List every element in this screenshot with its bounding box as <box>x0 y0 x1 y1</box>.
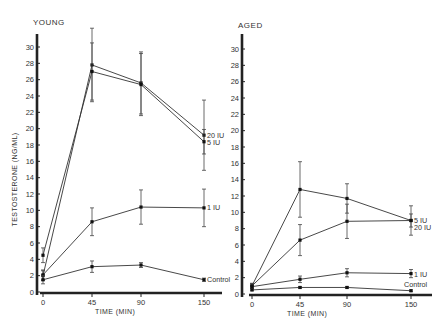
series-line <box>43 65 204 276</box>
series-line <box>252 221 411 286</box>
series-label: Control <box>207 275 231 284</box>
x-tick-label: 0 <box>41 298 45 307</box>
series-line <box>252 273 411 287</box>
series-label: 1 IU <box>207 203 220 212</box>
data-point <box>202 278 205 281</box>
series-control: Control <box>250 280 428 292</box>
series-line <box>252 189 411 285</box>
y-tick-label: 4 <box>30 255 34 264</box>
y-tick-label: 0 <box>235 290 239 299</box>
y-tick-label: 30 <box>26 43 34 52</box>
data-point <box>298 239 301 242</box>
data-point <box>139 263 142 266</box>
series-1-iu: 1 IU <box>41 189 220 280</box>
y-tick-label: 16 <box>26 157 34 166</box>
data-point <box>298 286 301 289</box>
data-point <box>345 286 348 289</box>
data-point <box>139 205 142 208</box>
x-tick-label: 90 <box>137 298 145 307</box>
y-tick-label: 18 <box>231 143 239 152</box>
data-point <box>250 285 253 288</box>
data-point <box>409 219 412 222</box>
data-point <box>345 271 348 274</box>
y-tick-label: 10 <box>231 208 239 217</box>
data-point <box>250 288 253 291</box>
data-point <box>41 278 44 281</box>
data-point <box>345 220 348 223</box>
data-point <box>202 206 205 209</box>
data-point <box>202 140 205 143</box>
y-tick-label: 22 <box>231 110 239 119</box>
y-tick-label: 14 <box>231 175 239 184</box>
data-point <box>409 289 412 292</box>
y-tick-label: 6 <box>235 241 239 250</box>
x-tick-label: 150 <box>405 300 418 309</box>
x-tick-label: 150 <box>198 298 211 307</box>
series-line <box>43 72 204 256</box>
series-1-iu: 1 IU <box>250 269 427 289</box>
y-tick-label: 8 <box>30 222 34 231</box>
x-axis-label: TIME (MIN) <box>287 310 327 318</box>
data-point <box>90 220 93 223</box>
panel-title: YOUNG <box>33 18 65 27</box>
series-5-iu: 5 IU <box>41 43 220 263</box>
y-tick-label: 24 <box>231 94 239 103</box>
x-tick-label: 0 <box>250 300 254 309</box>
y-tick-label: 4 <box>235 257 239 266</box>
series-control: Control <box>41 261 231 284</box>
y-tick-label: 30 <box>231 45 239 54</box>
y-tick-label: 6 <box>30 239 34 248</box>
y-tick-label: 20 <box>231 126 239 135</box>
data-point <box>298 188 301 191</box>
series-label: 5 IU <box>207 138 220 147</box>
y-tick-label: 10 <box>26 206 34 215</box>
testosterone-chart: YOUNG02468101214161820222426283004590150… <box>0 0 448 327</box>
y-tick-label: 28 <box>231 61 239 70</box>
series-line <box>43 265 204 280</box>
x-axis-label: TIME (MIN) <box>95 308 135 316</box>
y-tick-label: 24 <box>26 92 34 101</box>
y-tick-label: 2 <box>235 273 239 282</box>
panel-title: AGED <box>238 21 263 30</box>
y-axis-label: TESTOSTERONE (NG/ML) <box>11 133 19 227</box>
y-tick-label: 2 <box>30 271 34 280</box>
y-tick-label: 16 <box>231 159 239 168</box>
data-point <box>90 265 93 268</box>
series-20-iu: 20 IU <box>250 204 431 288</box>
panel-aged: AGED02468101214161820222426283004590150T… <box>231 21 432 318</box>
y-tick-label: 14 <box>26 173 34 182</box>
y-tick-label: 22 <box>26 108 34 117</box>
y-tick-label: 8 <box>235 224 239 233</box>
series-label: Control <box>404 280 428 289</box>
series-line <box>252 287 411 290</box>
y-tick-label: 26 <box>231 77 239 86</box>
data-point <box>41 254 44 257</box>
x-tick-label: 45 <box>88 298 96 307</box>
data-point <box>139 83 142 86</box>
y-tick-label: 20 <box>26 124 34 133</box>
series-label: 1 IU <box>414 270 427 279</box>
y-tick-label: 12 <box>231 192 239 201</box>
data-point <box>298 278 301 281</box>
y-tick-label: 12 <box>26 190 34 199</box>
y-tick-label: 0 <box>30 288 34 297</box>
series-20-iu: 20 IU <box>41 28 224 280</box>
y-tick-label: 28 <box>26 59 34 68</box>
series-line <box>43 207 204 275</box>
data-point <box>345 197 348 200</box>
y-tick-label: 26 <box>26 75 34 84</box>
data-point <box>409 272 412 275</box>
panel-young: YOUNG02468101214161820222426283004590150… <box>11 18 231 316</box>
series-label: 20 IU <box>414 223 431 232</box>
x-tick-label: 45 <box>296 300 304 309</box>
x-tick-label: 90 <box>343 300 351 309</box>
y-tick-label: 18 <box>26 141 34 150</box>
data-point <box>90 70 93 73</box>
